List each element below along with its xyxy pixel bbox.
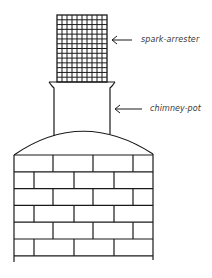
dome-shape bbox=[14, 131, 153, 155]
spark-arrester-arrow-icon bbox=[112, 36, 132, 44]
chimney-pot-label: chimney-pot bbox=[150, 104, 201, 113]
spark-arrester-label: spark-arrester bbox=[141, 35, 199, 44]
brick-stack bbox=[14, 154, 153, 262]
chimney-pot-arrow-icon bbox=[115, 105, 142, 113]
spark-arrester-mesh bbox=[57, 15, 107, 82]
chimney-pot-shape bbox=[49, 82, 115, 136]
